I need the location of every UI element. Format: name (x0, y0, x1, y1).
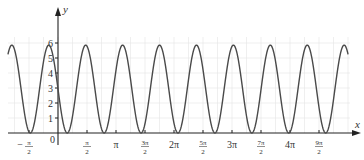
sine-curve-chart: x y 0 π2−π2π3π22π5π23π7π24π9π2 123456 (0, 0, 364, 160)
x-tick-label-denominator: 2 (259, 148, 263, 156)
x-tick-label-numerator: 3π (141, 139, 149, 147)
x-ticks: π2−π2π3π22π5π23π7π24π9π2 (17, 130, 323, 156)
x-tick-label-denominator: 2 (85, 148, 89, 156)
x-tick-label-denominator: 2 (143, 148, 147, 156)
y-axis-label: y (62, 3, 68, 15)
axes: x y 0 (8, 3, 361, 145)
x-tick-label-numerator: π (85, 139, 89, 147)
x-tick-label: 3π (227, 139, 237, 150)
origin-label: 0 (50, 134, 55, 145)
y-axis-arrow-icon (55, 7, 61, 16)
x-tick-label-numerator: 5π (199, 139, 207, 147)
x-tick-label: 4π (285, 139, 295, 150)
x-tick-label: π (113, 139, 118, 150)
x-tick-label-numerator: 9π (315, 139, 323, 147)
x-tick-label-denominator: 2 (317, 148, 321, 156)
x-tick-label: 2π (169, 139, 179, 150)
x-tick-label-denominator: 2 (201, 148, 205, 156)
x-axis-label: x (354, 118, 360, 130)
y-tick-label: 3 (48, 83, 53, 94)
y-tick-label: 2 (48, 98, 53, 109)
x-tick-label-sign: − (17, 139, 23, 150)
y-tick-label: 4 (48, 68, 53, 79)
x-tick-label-denominator: 2 (27, 148, 31, 156)
x-axis-arrow-icon (352, 130, 361, 136)
x-tick-label-numerator: 7π (257, 139, 265, 147)
y-tick-label: 1 (48, 113, 53, 124)
x-tick-label-numerator: π (27, 139, 31, 147)
